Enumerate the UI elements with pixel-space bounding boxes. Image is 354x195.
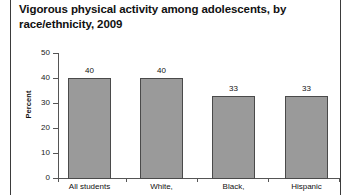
x-label-black: Black, [206,182,261,191]
x-tick-2 [197,178,198,182]
y-tick-label-50-wrap: 50 [31,53,50,54]
x-label-hispanic: Hispanic [279,182,334,191]
y-axis-line [58,53,59,179]
bar-value-white: 40 [140,66,183,75]
y-tick-label-10-wrap: 10 [31,153,50,154]
bar-black [212,96,255,179]
y-tick-label-20: 20 [31,123,50,132]
bar-value-black: 33 [212,84,255,93]
y-tick-label-0: 0 [31,173,50,182]
y-tick-label-50: 50 [31,48,50,57]
x-tick-1 [126,178,127,182]
chart-figure: Vigorous physical activity among adolesc… [0,0,354,195]
y-tick-label-20-wrap: 20 [31,128,50,129]
x-tick-4 [339,178,340,182]
x-label-all-students: All students [62,182,117,191]
bar-all-students [68,78,111,179]
y-tick-50 [53,53,58,54]
bar-white [140,78,183,179]
y-tick-20 [53,128,58,129]
y-tick-label-30-wrap: 30 [31,103,50,104]
x-tick-3 [268,178,269,182]
y-tick-10 [53,153,58,154]
y-tick-label-40-wrap: 40 [31,78,50,79]
bar-hispanic [285,96,328,179]
y-tick-label-10: 10 [31,148,50,157]
x-tick-0 [58,178,59,182]
plot-area: Percent 50 40 30 20 10 0 40 [0,0,354,195]
y-tick-label-0-wrap: 0 [31,178,50,179]
y-tick-40 [53,78,58,79]
bar-value-hispanic: 33 [285,84,328,93]
y-tick-label-40: 40 [31,73,50,82]
x-label-white: White, [134,182,189,191]
y-tick-30 [53,103,58,104]
y-tick-label-30: 30 [31,98,50,107]
bar-value-all-students: 40 [68,66,111,75]
